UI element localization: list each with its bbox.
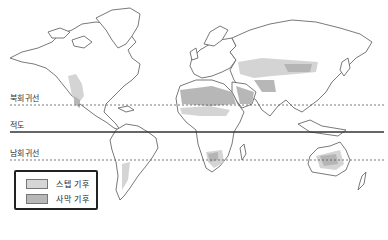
steppe-swatch (26, 179, 48, 189)
british-isles (190, 48, 198, 60)
madagascar (240, 144, 246, 160)
tropic-of-capricorn-label: 남회귀선 (10, 147, 39, 158)
tropic-of-cancer-label: 북회귀선 (10, 92, 39, 103)
legend-item-steppe: 스텝 기후 (26, 178, 89, 189)
legend-label: 스텝 기후 (56, 178, 89, 189)
south-america (110, 124, 158, 200)
legend-label: 사막 기후 (56, 193, 89, 204)
equator-label: 적도 (10, 119, 25, 130)
legend: 스텝 기후 사막 기후 (14, 170, 98, 210)
legend-item-desert: 사막 기후 (26, 193, 89, 204)
caribbean-islands (118, 106, 134, 112)
southeast-asia-islands (298, 120, 346, 136)
new-zealand (358, 172, 366, 190)
desert-gobi (284, 64, 312, 72)
desert-swatch (26, 194, 48, 204)
